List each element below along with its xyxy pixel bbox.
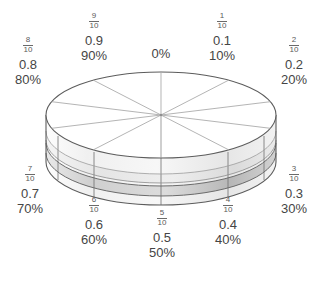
label-7-percent: 70% [8,202,52,215]
figure-canvas: 0% 1 10 0.1 10% 2 10 0.2 20% 3 10 0.3 30… [0,0,321,284]
fraction-2-10: 2 10 [289,36,300,55]
fraction-3-10-denominator: 10 [289,175,300,183]
fraction-6-10-numerator: 6 [89,196,100,204]
label-2-percent: 20% [272,73,316,86]
label-4-percent: 40% [206,233,250,246]
label-8-percent: 80% [6,73,50,86]
fraction-1-10-numerator: 1 [217,12,228,20]
spoke-hub [160,114,162,116]
fraction-5-10: 5 10 [157,209,168,228]
fraction-7-10-denominator: 10 [25,175,36,183]
fraction-7-10: 7 10 [25,165,36,184]
fraction-1-10: 1 10 [217,12,228,31]
label-0-percent: 0% [141,47,181,60]
label-5-percent: 50% [140,246,184,259]
fraction-3-10-numerator: 3 [289,165,300,173]
fraction-8-10: 8 10 [23,36,34,55]
fraction-4-10-denominator: 10 [223,206,234,214]
label-6-percent: 60% [72,233,116,246]
label-9-tenths: 9 10 0.9 90% [70,12,118,62]
fraction-6-10-denominator: 10 [89,206,100,214]
label-3-decimal: 0.3 [272,187,316,200]
label-7-decimal: 0.7 [8,187,52,200]
fraction-9-10-numerator: 9 [89,12,100,20]
label-3-percent: 30% [272,202,316,215]
label-4-tenths: 4 10 0.4 40% [206,196,250,246]
label-9-decimal: 0.9 [70,34,118,47]
label-3-tenths: 3 10 0.3 30% [272,165,316,215]
label-5-tenths: 5 10 0.5 50% [140,209,184,259]
fraction-5-10-denominator: 10 [157,219,168,227]
fraction-8-10-numerator: 8 [23,36,34,44]
label-2-tenths: 2 10 0.2 20% [272,36,316,86]
label-8-decimal: 0.8 [6,58,50,71]
label-9-percent: 90% [70,49,118,62]
fraction-7-10-numerator: 7 [25,165,36,173]
label-0: 0% [141,47,181,60]
fraction-5-10-numerator: 5 [157,209,168,217]
fraction-9-10-denominator: 10 [89,22,100,30]
label-6-decimal: 0.6 [72,218,116,231]
label-8-tenths: 8 10 0.8 80% [6,36,50,86]
fraction-6-10: 6 10 [89,196,100,215]
fraction-2-10-denominator: 10 [289,46,300,54]
fraction-1-10-denominator: 10 [217,22,228,30]
label-1-decimal: 0.1 [198,34,246,47]
label-4-decimal: 0.4 [206,218,250,231]
label-5-decimal: 0.5 [140,231,184,244]
label-2-decimal: 0.2 [272,58,316,71]
label-1-tenth: 1 10 0.1 10% [198,12,246,62]
label-7-tenths: 7 10 0.7 70% [8,165,52,215]
fraction-2-10-numerator: 2 [289,36,300,44]
fraction-4-10: 4 10 [223,196,234,215]
label-6-tenths: 6 10 0.6 60% [72,196,116,246]
fraction-3-10: 3 10 [289,165,300,184]
fraction-8-10-denominator: 10 [23,46,34,54]
label-1-percent: 10% [198,49,246,62]
fraction-9-10: 9 10 [89,12,100,31]
fraction-4-10-numerator: 4 [223,196,234,204]
